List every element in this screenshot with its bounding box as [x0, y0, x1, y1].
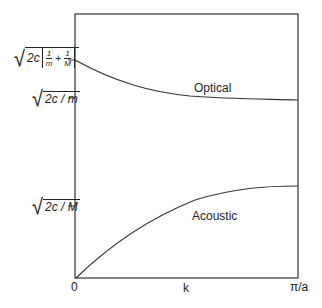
optical-curve: [75, 60, 298, 100]
sqrt-icon: √: [32, 195, 43, 217]
x-axis-label: k: [183, 281, 189, 295]
frac1-den: m: [46, 59, 53, 68]
sqrt-icon: √: [32, 87, 43, 109]
acoustic-label: Acoustic: [192, 209, 237, 223]
y-label-low: √ 2c / M: [32, 196, 80, 216]
frac2-den: M: [64, 59, 71, 68]
plot-frame: [75, 14, 298, 278]
y-label-low-text: 2c / M: [43, 199, 80, 214]
frac2-num: 1: [64, 49, 70, 59]
y-label-top: √ 2c 1m + 1M: [14, 47, 79, 68]
plus-sign: +: [55, 53, 61, 64]
y-label-mid: √ 2c / m: [32, 88, 80, 108]
y-label-mid-text: 2c / m: [43, 91, 80, 106]
frac1-num: 1: [46, 49, 52, 59]
optical-label: Optical: [194, 81, 231, 95]
acoustic-curve: [76, 186, 298, 278]
sqrt-icon: √: [14, 47, 25, 69]
x-tick-pi-over-a: π/a: [290, 280, 308, 294]
y-label-top-prefix: 2c: [27, 51, 40, 65]
x-tick-zero: 0: [71, 280, 78, 294]
